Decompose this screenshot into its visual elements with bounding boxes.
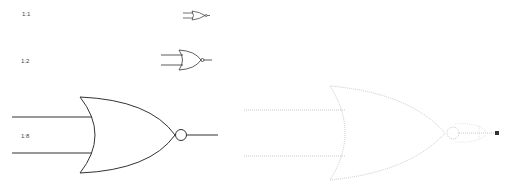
nor-gate-1-1 <box>183 11 210 20</box>
endpoint-handle[interactable] <box>495 131 499 135</box>
nor-gate-outline <box>244 86 496 180</box>
nor-gate-1-2 <box>161 50 212 70</box>
nor-gate-diagram <box>0 0 512 187</box>
nor-gate-1-8 <box>12 97 218 173</box>
